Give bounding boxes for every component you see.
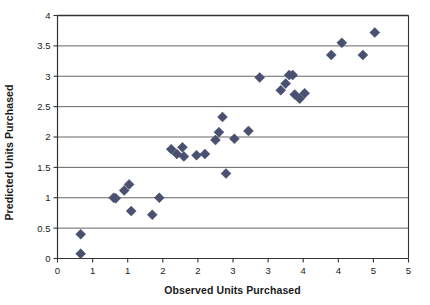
- data-point: [243, 126, 253, 136]
- data-point: [200, 149, 210, 159]
- x-tick-label: 5: [406, 265, 411, 276]
- y-tick-label: 3: [45, 71, 50, 82]
- y-tick-label: 0.5: [37, 223, 50, 234]
- scatter-chart: Predicted Units Purchased 00.511.522.533…: [0, 0, 430, 305]
- x-tick-label: 2: [160, 265, 165, 276]
- data-point: [370, 28, 380, 38]
- data-point: [358, 50, 368, 60]
- data-series: [76, 28, 380, 259]
- data-point: [147, 210, 157, 220]
- data-point: [337, 38, 347, 48]
- data-point: [255, 72, 265, 82]
- y-tick-label: 1.5: [37, 162, 50, 173]
- y-tick-label: 4: [45, 10, 50, 21]
- data-point: [76, 249, 86, 259]
- x-tick-label: 0: [55, 265, 60, 276]
- x-tick-label: 5: [371, 265, 376, 276]
- x-tick-label: 4: [301, 265, 306, 276]
- data-point: [326, 50, 336, 60]
- data-point: [191, 150, 201, 160]
- y-tick-label: 3.5: [37, 40, 50, 51]
- y-tick-label: 2.5: [37, 101, 50, 112]
- y-tick-label: 2: [45, 131, 50, 142]
- data-point: [217, 112, 227, 122]
- data-point: [126, 206, 136, 216]
- data-point: [154, 193, 164, 203]
- x-tick-label: 4: [336, 265, 341, 276]
- x-axis-ticks: 01122334455: [55, 259, 411, 276]
- y-tick-label: 1: [45, 192, 50, 203]
- x-tick-label: 2: [195, 265, 200, 276]
- x-tick-label: 1: [90, 265, 95, 276]
- data-point: [221, 168, 231, 178]
- x-tick-label: 1: [125, 265, 130, 276]
- data-point: [76, 229, 86, 239]
- plot-area: 00.511.522.533.5401122334455: [0, 0, 430, 305]
- x-axis-title: Observed Units Purchased: [57, 284, 408, 296]
- x-tick-label: 3: [230, 265, 235, 276]
- y-axis-ticks: 00.511.522.533.54: [37, 10, 57, 264]
- data-point: [229, 134, 239, 144]
- x-tick-label: 3: [265, 265, 270, 276]
- y-tick-label: 0: [45, 253, 50, 264]
